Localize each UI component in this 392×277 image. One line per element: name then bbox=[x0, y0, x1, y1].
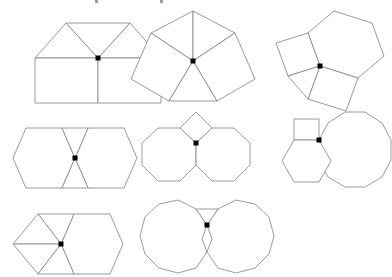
figure-7 bbox=[10, 207, 130, 277]
marked-vertex-dot bbox=[205, 223, 210, 228]
figure-2 bbox=[128, 8, 258, 103]
marked-vertex-dot bbox=[73, 156, 78, 161]
polygon-square bbox=[35, 58, 98, 103]
figure-5 bbox=[133, 108, 255, 186]
figure-3 bbox=[272, 8, 384, 114]
marked-vertex-dot bbox=[318, 64, 323, 69]
artifact-mark bbox=[160, 0, 163, 3]
marked-vertex-dot bbox=[59, 242, 64, 247]
polygon-square bbox=[294, 119, 319, 140]
figure-8 bbox=[133, 193, 278, 277]
artifact-mark bbox=[95, 0, 98, 3]
figure-6 bbox=[278, 103, 392, 193]
marked-vertex-dot bbox=[96, 56, 101, 61]
figure-4 bbox=[10, 122, 140, 194]
top-edge-artifacts bbox=[0, 0, 382, 6]
polygon-dodecagon bbox=[319, 112, 391, 187]
marked-vertex-dot bbox=[317, 138, 322, 143]
marked-vertex-dot bbox=[191, 59, 196, 64]
marked-vertex-dot bbox=[194, 141, 199, 146]
